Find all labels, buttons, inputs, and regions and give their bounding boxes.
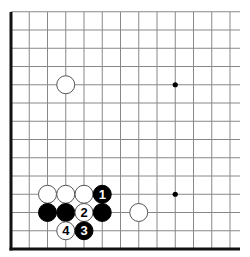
star-point	[173, 192, 178, 197]
star-point	[173, 82, 178, 87]
black-stone-1: 1	[93, 185, 111, 203]
move-number: 2	[80, 205, 87, 220]
move-number: 4	[62, 223, 70, 238]
white-stone	[57, 185, 75, 203]
black-stone	[57, 204, 75, 222]
black-stone	[93, 204, 111, 222]
white-stone	[75, 185, 93, 203]
white-stone	[39, 185, 57, 203]
move-number: 3	[80, 223, 87, 238]
black-stone	[39, 204, 57, 222]
white-stone-2: 2	[75, 204, 93, 222]
white-stone-4: 4	[57, 222, 75, 240]
go-board: 1243	[0, 0, 250, 257]
white-stone	[57, 76, 75, 94]
move-number: 1	[99, 187, 106, 202]
black-stone-3: 3	[75, 222, 93, 240]
white-stone	[130, 204, 148, 222]
